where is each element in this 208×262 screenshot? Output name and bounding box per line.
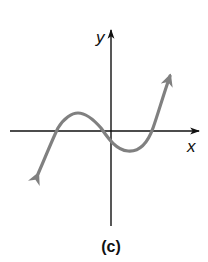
cubic-curve <box>38 76 170 174</box>
cubic-graph-figure: y x (c) <box>0 0 208 262</box>
y-axis-label: y <box>95 28 106 47</box>
x-axis-label: x <box>186 137 196 156</box>
figure-caption: (c) <box>101 238 121 255</box>
